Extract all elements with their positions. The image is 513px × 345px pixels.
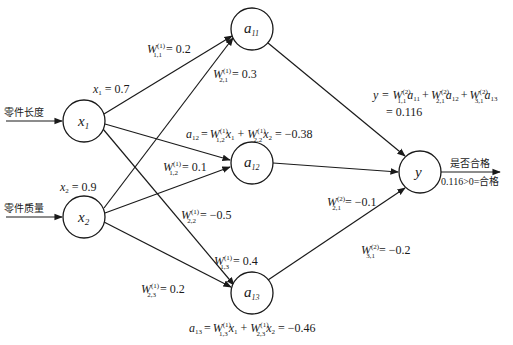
x1-value: x1= 0.7 (92, 82, 130, 97)
weight-w12-1: W(1)1,2= 0.1 (163, 160, 207, 177)
node-a13: a13 (231, 272, 273, 314)
edge-x2-a13 (104, 222, 231, 287)
weight-w22-1: W(1)2,2= −0.5 (181, 208, 231, 225)
decision-result: 0.116>0=合格 (441, 175, 499, 187)
svg-text:y: y (413, 164, 422, 180)
node-a11: a11 (231, 8, 273, 50)
node-x2: x2 (63, 196, 105, 238)
node-a12: a12 (231, 142, 273, 184)
node-y: y (399, 151, 441, 193)
decision-label: 是否合格 (450, 157, 490, 169)
edge-x2-a11 (104, 38, 233, 208)
formula-y: y =W(2)1,1a11+W(2)2,1a12+W(2)3,1a13 (372, 88, 498, 105)
feature-label-mass: 零件质量 (4, 203, 44, 214)
formula-a13: a13=W(1)1,3x1+W(1)2,3x2= −0.46 (189, 321, 316, 338)
formula-y-result: = 0.116 (386, 105, 422, 119)
x2-value: x2= 0.9 (59, 180, 97, 195)
feature-label-length: 零件长度 (4, 106, 44, 118)
weight-w13-1: W(1)1,3= 0.4 (214, 254, 258, 271)
weight-w11-1: W(1)1,1= 0.2 (147, 42, 191, 59)
weight-w23-1: W(1)2,3= 0.2 (141, 282, 185, 299)
formula-a12: a12=W(1)1,2x1+W(1)2,2x2= −0.38 (186, 127, 313, 144)
weight-w21-2: W(2)2,1= −0.1 (327, 195, 376, 212)
neural-network-diagram: x1 x2 a11 a12 a13 y 零件长度 零件质量 x1= 0.7 x2… (0, 0, 513, 345)
weight-w31-2: W(2)3,1= −0.2 (361, 243, 410, 260)
edge-a12-y (273, 163, 398, 172)
weight-w21-1: W(1)2,1= 0.3 (213, 67, 257, 84)
node-x1: x1 (63, 100, 105, 142)
